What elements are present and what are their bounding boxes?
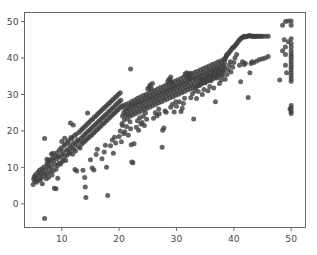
data-point bbox=[54, 186, 59, 191]
data-point bbox=[266, 54, 271, 59]
data-point bbox=[111, 151, 116, 156]
data-point bbox=[213, 99, 218, 104]
data-point bbox=[128, 66, 133, 71]
data-point bbox=[83, 185, 88, 190]
data-point bbox=[46, 158, 51, 163]
data-point bbox=[88, 157, 93, 162]
x-tick-label: 10 bbox=[56, 233, 68, 244]
x-tick-label: 50 bbox=[285, 233, 297, 244]
data-point bbox=[282, 37, 287, 42]
data-point bbox=[99, 156, 104, 161]
data-point bbox=[211, 85, 216, 90]
data-point bbox=[108, 143, 113, 148]
data-point bbox=[174, 104, 179, 109]
y-tick-label: 50 bbox=[7, 16, 19, 27]
data-point bbox=[206, 88, 211, 93]
data-point bbox=[283, 45, 288, 50]
data-point bbox=[238, 79, 243, 84]
data-point bbox=[266, 34, 271, 39]
data-point bbox=[219, 72, 224, 77]
data-point bbox=[230, 65, 235, 70]
data-point bbox=[80, 168, 85, 173]
data-point bbox=[288, 107, 293, 112]
data-point bbox=[132, 141, 137, 146]
data-point bbox=[82, 175, 87, 180]
data-point bbox=[289, 18, 294, 23]
data-point bbox=[83, 195, 88, 200]
data-point bbox=[118, 98, 123, 103]
data-point bbox=[164, 110, 169, 115]
data-point bbox=[200, 92, 205, 97]
data-point bbox=[91, 167, 96, 172]
data-point bbox=[143, 111, 148, 116]
data-point bbox=[113, 140, 118, 145]
data-point bbox=[168, 75, 173, 80]
data-point bbox=[172, 109, 177, 114]
data-point bbox=[228, 69, 233, 74]
data-point bbox=[277, 77, 282, 82]
data-point bbox=[122, 129, 127, 134]
data-point bbox=[104, 165, 109, 170]
y-tick-label: 40 bbox=[7, 52, 19, 63]
data-point bbox=[40, 181, 45, 186]
data-point bbox=[71, 123, 76, 128]
data-point bbox=[182, 96, 187, 101]
data-point bbox=[126, 133, 131, 138]
data-point bbox=[157, 111, 162, 116]
data-point bbox=[142, 123, 147, 128]
data-point bbox=[103, 143, 108, 148]
data-point bbox=[128, 119, 133, 124]
data-point bbox=[243, 61, 248, 66]
data-point bbox=[42, 216, 47, 221]
data-point bbox=[247, 70, 252, 75]
plot-canvas: 102030405001020304050 bbox=[0, 0, 317, 255]
data-point bbox=[95, 147, 100, 152]
data-point bbox=[220, 68, 225, 73]
data-point bbox=[223, 77, 228, 82]
data-point bbox=[194, 96, 199, 101]
data-point bbox=[118, 90, 123, 95]
data-point bbox=[85, 111, 90, 116]
data-point bbox=[42, 136, 47, 141]
data-point bbox=[112, 135, 117, 140]
data-point bbox=[94, 152, 99, 157]
data-point bbox=[105, 193, 110, 198]
data-point bbox=[74, 169, 79, 174]
data-point bbox=[119, 139, 124, 144]
y-tick-label: 30 bbox=[7, 89, 19, 100]
data-point bbox=[161, 126, 166, 131]
data-point bbox=[150, 81, 155, 86]
data-point bbox=[231, 60, 236, 65]
data-point bbox=[180, 106, 185, 111]
data-point bbox=[50, 173, 55, 178]
x-tick-label: 20 bbox=[113, 233, 125, 244]
y-tick-label: 20 bbox=[7, 125, 19, 136]
data-point bbox=[128, 126, 133, 131]
data-point bbox=[234, 52, 239, 57]
scatter-plot-figure: 102030405001020304050 bbox=[0, 0, 317, 255]
data-point bbox=[102, 150, 107, 155]
data-point bbox=[246, 95, 251, 100]
data-point bbox=[130, 160, 135, 165]
data-point bbox=[160, 145, 165, 150]
data-point bbox=[181, 101, 186, 106]
x-tick-label: 40 bbox=[228, 233, 240, 244]
data-point bbox=[289, 79, 294, 84]
data-point bbox=[289, 23, 294, 28]
x-tick-label: 30 bbox=[171, 233, 183, 244]
y-tick-label: 10 bbox=[7, 162, 19, 173]
data-point bbox=[289, 111, 294, 116]
data-point bbox=[283, 63, 288, 68]
data-point bbox=[63, 158, 68, 163]
data-point bbox=[196, 89, 201, 94]
data-point bbox=[73, 148, 78, 153]
y-tick-label: 0 bbox=[13, 198, 19, 209]
data-point bbox=[55, 176, 60, 181]
data-point bbox=[284, 70, 289, 75]
data-point bbox=[144, 117, 149, 122]
data-point bbox=[156, 107, 161, 112]
data-point bbox=[191, 116, 196, 121]
data-point bbox=[136, 128, 141, 133]
data-point bbox=[117, 134, 122, 139]
